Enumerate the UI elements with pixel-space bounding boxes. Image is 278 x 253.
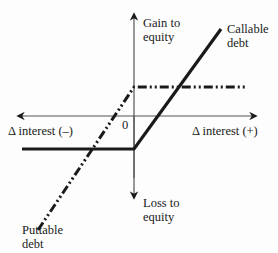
origin-label: 0 <box>122 118 128 132</box>
loss-to-equity-label: Loss to equity <box>143 196 179 224</box>
callable-debt-label: Callable debt <box>227 22 269 50</box>
loss-label-line2: equity <box>143 210 179 224</box>
puttable-label-line2: debt <box>22 237 63 251</box>
gain-label-line2: equity <box>143 30 180 44</box>
loss-label-line1: Loss to <box>143 196 179 210</box>
callable-label-line2: debt <box>227 36 269 50</box>
callable-label-line1: Callable <box>227 22 269 36</box>
gain-to-equity-label: Gain to equity <box>143 16 180 44</box>
x-left-label: Δ interest (–) <box>8 124 73 138</box>
puttable-debt-label: Puttable debt <box>22 223 63 251</box>
x-right-label: Δ interest (+) <box>192 124 258 138</box>
puttable-label-line1: Puttable <box>22 223 63 237</box>
puttable-debt-line <box>38 87 245 230</box>
gain-label-line1: Gain to <box>143 16 180 30</box>
payoff-diagram: Gain to equity Callable debt 0 Δ interes… <box>0 0 278 253</box>
